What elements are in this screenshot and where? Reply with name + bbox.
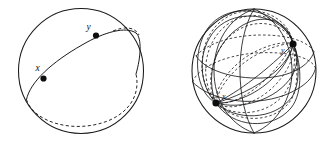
right-sphere-panel: x y <box>192 9 316 133</box>
right-point-x-node <box>212 99 219 106</box>
left-point-x-label: x <box>35 63 41 73</box>
spheres-illustration: x y <box>0 0 336 150</box>
left-great-circle-front-arc <box>27 30 141 99</box>
left-point-y-node <box>93 32 99 38</box>
left-point-y-group: y <box>86 22 100 39</box>
right-point-y-node <box>289 40 296 47</box>
left-point-x-node <box>40 75 46 81</box>
left-great-circle-rim-segment <box>113 28 139 35</box>
left-sphere-panel: x y <box>19 9 144 134</box>
figure-canvas: x y <box>0 0 336 150</box>
right-sphere-outline <box>192 9 316 133</box>
right-point-x-label: x <box>221 92 226 101</box>
left-great-circle-back-arc <box>27 74 137 126</box>
right-point-y-label: y <box>280 46 285 55</box>
left-point-y-label: y <box>86 22 92 32</box>
